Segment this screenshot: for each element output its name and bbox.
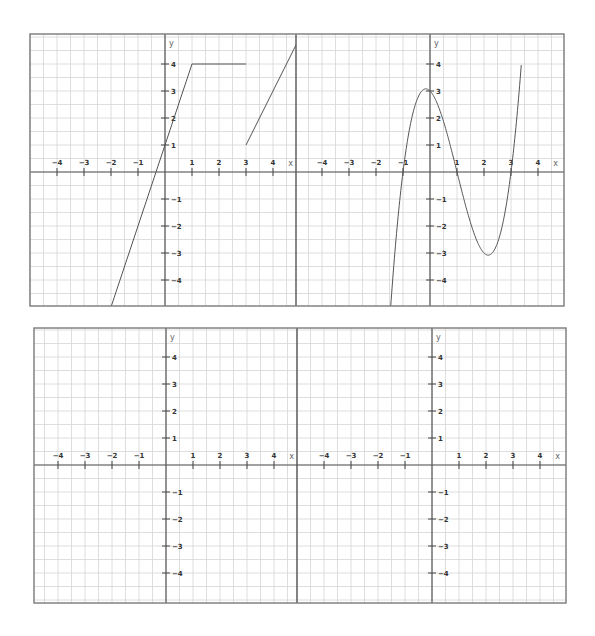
x-tick-label: 2 bbox=[482, 159, 487, 167]
x-tick-label: −3 bbox=[344, 159, 355, 167]
x-tick-label: −3 bbox=[346, 452, 357, 460]
y-tick-label: 3 bbox=[171, 88, 176, 96]
x-tick-label: −1 bbox=[134, 452, 145, 460]
y-tick-label: 3 bbox=[436, 88, 441, 96]
x-axis-label: x bbox=[555, 452, 560, 461]
y-tick-label: 1 bbox=[172, 435, 177, 443]
y-tick-label: 4 bbox=[172, 354, 177, 362]
top-left-graph: −4−3−2−11234−4−3−2−11234yx bbox=[52, 34, 299, 307]
y-tick-label: 2 bbox=[438, 408, 443, 416]
x-tick-label: −2 bbox=[106, 159, 117, 167]
x-tick-label: −3 bbox=[79, 159, 90, 167]
x-tick-label: 4 bbox=[272, 452, 277, 460]
y-tick-label: 2 bbox=[436, 115, 441, 123]
x-tick-label: 3 bbox=[245, 452, 250, 460]
x-tick-label: 3 bbox=[511, 452, 516, 460]
y-axis-label: y bbox=[169, 39, 174, 48]
y-tick-label: 3 bbox=[172, 381, 177, 389]
x-tick-label: 2 bbox=[484, 452, 489, 460]
bottom-graph-svg: −4−3−2−11234−4−3−2−11234yx−4−3−2−11234−4… bbox=[0, 318, 595, 636]
y-tick-label: −3 bbox=[171, 250, 182, 258]
y-tick-label: −3 bbox=[172, 543, 183, 551]
y-tick-label: −4 bbox=[172, 570, 183, 578]
x-axis-label: x bbox=[553, 159, 558, 168]
top-graph-panel: −4−3−2−11234−4−3−2−11234yx−4−3−2−11234−4… bbox=[0, 0, 595, 318]
y-tick-label: 1 bbox=[171, 142, 176, 150]
y-tick-label: −1 bbox=[171, 196, 182, 204]
x-tick-label: −4 bbox=[317, 159, 328, 167]
x-tick-label: −3 bbox=[80, 452, 91, 460]
y-tick-label: −2 bbox=[436, 223, 447, 231]
x-tick-label: −2 bbox=[371, 159, 382, 167]
x-tick-label: −2 bbox=[373, 452, 384, 460]
x-tick-label: 4 bbox=[271, 159, 276, 167]
x-tick-label: 1 bbox=[457, 452, 462, 460]
x-tick-label: −4 bbox=[53, 452, 64, 460]
x-axis-label: x bbox=[289, 452, 294, 461]
y-tick-label: −1 bbox=[436, 196, 447, 204]
y-tick-label: −3 bbox=[438, 543, 449, 551]
y-tick-label: −2 bbox=[438, 516, 449, 524]
y-tick-label: 4 bbox=[436, 61, 441, 69]
bottom-graph-panel: −4−3−2−11234−4−3−2−11234yx−4−3−2−11234−4… bbox=[0, 318, 595, 636]
y-tick-label: −3 bbox=[436, 250, 447, 258]
x-tick-label: 1 bbox=[191, 452, 196, 460]
y-axis-label: y bbox=[434, 39, 439, 48]
y-tick-label: −1 bbox=[172, 489, 183, 497]
x-tick-label: 4 bbox=[536, 159, 541, 167]
x-axis-label: x bbox=[288, 159, 293, 168]
x-tick-label: −1 bbox=[400, 452, 411, 460]
y-tick-label: −1 bbox=[438, 489, 449, 497]
y-tick-label: −4 bbox=[438, 570, 449, 578]
y-tick-label: −4 bbox=[436, 277, 447, 285]
y-tick-label: 1 bbox=[438, 435, 443, 443]
y-axis-label: y bbox=[436, 333, 441, 342]
x-tick-label: 3 bbox=[244, 159, 249, 167]
top-graph-svg: −4−3−2−11234−4−3−2−11234yx−4−3−2−11234−4… bbox=[0, 0, 595, 318]
x-tick-label: 2 bbox=[217, 159, 222, 167]
y-tick-label: 3 bbox=[438, 381, 443, 389]
x-tick-label: −2 bbox=[107, 452, 118, 460]
y-tick-label: 4 bbox=[171, 61, 176, 69]
y-tick-label: 2 bbox=[172, 408, 177, 416]
function-curve bbox=[390, 65, 522, 324]
y-tick-label: −4 bbox=[171, 277, 182, 285]
y-tick-label: 4 bbox=[438, 354, 443, 362]
x-tick-label: −4 bbox=[52, 159, 63, 167]
function-curve bbox=[246, 40, 299, 145]
y-axis-label: y bbox=[170, 333, 175, 342]
y-tick-label: 1 bbox=[436, 142, 441, 150]
x-tick-label: −4 bbox=[319, 452, 330, 460]
y-tick-label: −2 bbox=[172, 516, 183, 524]
x-tick-label: 2 bbox=[218, 452, 223, 460]
y-tick-label: −2 bbox=[171, 223, 182, 231]
x-tick-label: 4 bbox=[538, 452, 543, 460]
x-tick-label: −1 bbox=[398, 159, 409, 167]
x-tick-label: 1 bbox=[190, 159, 195, 167]
x-tick-label: −1 bbox=[133, 159, 144, 167]
